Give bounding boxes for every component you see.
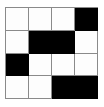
grid-cell-r2-c1[interactable]	[29, 54, 52, 77]
grid-cell-r0-c3[interactable]	[75, 8, 98, 31]
grid-cell-r3-c2[interactable]	[52, 76, 75, 99]
grid-cell-r1-c3[interactable]	[75, 31, 98, 54]
grid-cell-r0-c2[interactable]	[52, 8, 75, 31]
puzzle-grid[interactable]	[5, 7, 98, 99]
puzzle-grid-container	[0, 0, 104, 107]
grid-cell-r2-c2[interactable]	[52, 54, 75, 77]
grid-cell-r0-c1[interactable]	[29, 8, 52, 31]
grid-cell-r1-c2[interactable]	[52, 31, 75, 54]
grid-cell-r3-c3[interactable]	[75, 76, 98, 99]
grid-cell-r1-c0[interactable]	[6, 31, 29, 54]
grid-cell-r2-c0[interactable]	[6, 54, 29, 77]
grid-cell-r3-c0[interactable]	[6, 76, 29, 99]
grid-cell-r2-c3[interactable]	[75, 54, 98, 77]
grid-cell-r3-c1[interactable]	[29, 76, 52, 99]
grid-cell-r0-c0[interactable]	[6, 8, 29, 31]
grid-cell-r1-c1[interactable]	[29, 31, 52, 54]
